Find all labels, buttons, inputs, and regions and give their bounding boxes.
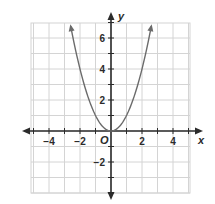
- origin-label: O: [100, 134, 109, 146]
- y-tick-label: 4: [99, 64, 105, 75]
- curve-left-arrow-icon: [69, 24, 75, 31]
- x-axis-label: x: [197, 134, 205, 146]
- x-tick-label: 4: [170, 136, 176, 147]
- curve-right-arrow-icon: [147, 24, 153, 31]
- y-axis-up-arrow-icon: [108, 12, 115, 20]
- x-axis-left-arrow-icon: [22, 128, 30, 135]
- y-tick-label: 2: [99, 95, 105, 106]
- graph-container: −4−224−2246 x y O: [0, 0, 215, 204]
- coordinate-plane: −4−224−2246 x y O: [0, 0, 215, 204]
- x-tick-label: −2: [74, 136, 86, 147]
- x-tick-label: 2: [139, 136, 145, 147]
- y-tick-label: −2: [94, 157, 106, 168]
- y-tick-label: 6: [99, 33, 105, 44]
- y-axis-label: y: [117, 10, 125, 22]
- x-tick-label: −4: [43, 136, 55, 147]
